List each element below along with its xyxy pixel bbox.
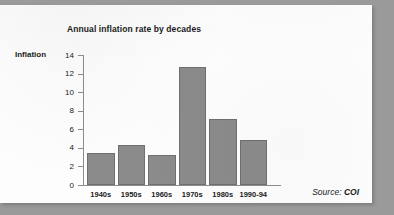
x-tick-label: 1960s <box>148 190 176 199</box>
y-axis-title: Inflation <box>15 50 46 59</box>
y-tick: 14 <box>78 55 83 56</box>
bar-slot <box>179 55 207 185</box>
y-tick: 4 <box>78 148 83 149</box>
bar-slot <box>118 55 146 185</box>
bar-1970s <box>179 67 207 185</box>
bar-1980s <box>209 119 237 185</box>
x-tick-label: 1950s <box>118 190 146 199</box>
y-tick-label: 4 <box>70 144 74 152</box>
bar-slot <box>240 55 268 185</box>
bar-1960s <box>148 155 176 185</box>
bar-group <box>87 55 267 185</box>
source-value: COI <box>344 187 359 197</box>
y-tick-label: 14 <box>65 52 74 60</box>
bar-1940s <box>87 153 115 185</box>
y-tick: 8 <box>78 111 83 112</box>
y-tick-label: 10 <box>65 89 74 97</box>
y-tick-label: 6 <box>70 126 74 134</box>
bar-1990-94 <box>240 140 268 186</box>
plot-area: 02468101214 <box>83 55 281 185</box>
y-tick: 0 <box>78 185 83 186</box>
y-tick-label: 2 <box>70 163 74 171</box>
bar-slot <box>148 55 176 185</box>
x-tick-label: 1970s <box>179 190 207 199</box>
chart-title: Annual inflation rate by decades <box>67 24 201 34</box>
y-tick-label: 12 <box>65 70 74 78</box>
y-tick-label: 8 <box>70 107 74 115</box>
bar-slot <box>209 55 237 185</box>
screenshot-root: Annual inflation rate by decades Inflati… <box>0 0 394 215</box>
x-tick-label: 1940s <box>87 190 115 199</box>
x-tick-label: 1990-94 <box>240 190 268 199</box>
x-tick-label: 1980s <box>209 190 237 199</box>
bar-1950s <box>118 145 146 185</box>
y-tick: 12 <box>78 74 83 75</box>
x-axis-line <box>83 185 281 186</box>
y-tick: 2 <box>78 166 83 167</box>
y-tick-label: 0 <box>70 182 74 190</box>
source-prefix: Source: <box>312 187 341 197</box>
y-axis-line <box>83 55 84 185</box>
source-note: Source: COI <box>312 187 359 197</box>
y-tick: 10 <box>78 92 83 93</box>
x-tick-label-group: 1940s1950s1960s1970s1980s1990-94 <box>87 190 267 199</box>
chart-card: Annual inflation rate by decades Inflati… <box>0 5 372 203</box>
y-tick: 6 <box>78 129 83 130</box>
bar-slot <box>87 55 115 185</box>
